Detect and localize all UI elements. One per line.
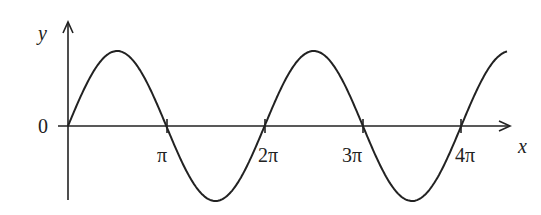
y-axis-label: y	[36, 22, 47, 45]
origin-label: 0	[38, 115, 48, 137]
tick-label-pi: π	[157, 144, 167, 166]
tick-label-3pi: 3π	[342, 144, 362, 166]
x-axis-label: x	[517, 135, 527, 157]
graph-canvas: y 0 x π 2π 3π 4π	[0, 0, 541, 215]
tick-label-4pi: 4π	[455, 144, 475, 166]
tick-label-2pi: 2π	[258, 144, 278, 166]
sine-graph: y 0 x π 2π 3π 4π	[0, 0, 541, 215]
